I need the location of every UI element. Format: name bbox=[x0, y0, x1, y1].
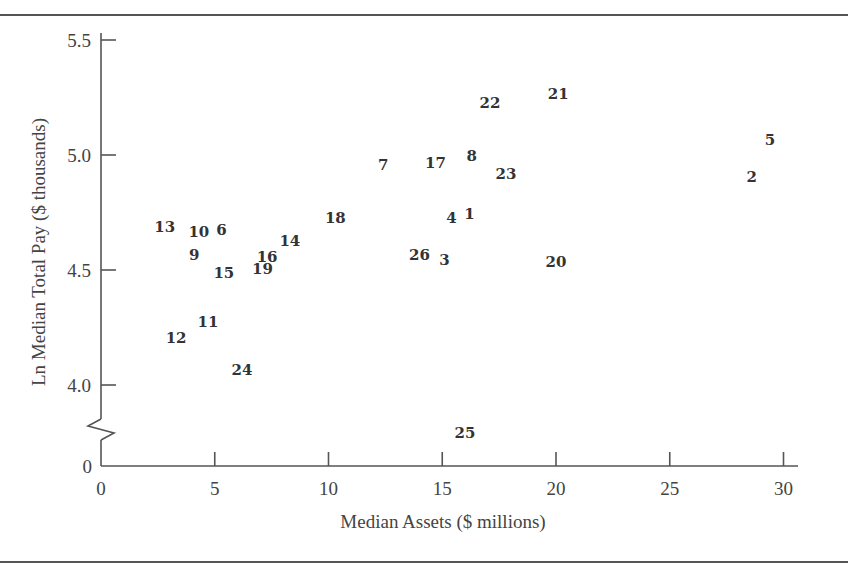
data-point-label: 18 bbox=[325, 209, 346, 227]
data-point-label: 26 bbox=[409, 246, 430, 264]
data-point-label: 2 bbox=[746, 168, 756, 186]
x-tick-label: 30 bbox=[774, 478, 793, 499]
data-point-label: 8 bbox=[467, 147, 477, 165]
data-point-label: 19 bbox=[252, 260, 273, 278]
data-point-label: 24 bbox=[232, 361, 253, 379]
data-point-label: 9 bbox=[189, 246, 199, 264]
y-tick-label: 5.0 bbox=[67, 145, 91, 166]
x-tick-label: 20 bbox=[547, 478, 566, 499]
x-tick-label: 15 bbox=[433, 478, 452, 499]
x-tick-label: 5 bbox=[210, 478, 220, 499]
x-tick-label: 0 bbox=[96, 478, 106, 499]
y-axis-title: Ln Median Total Pay ($ thousands) bbox=[28, 118, 50, 386]
scatter-chart: 4.04.55.05.5 051015202530 Ln Median Tota… bbox=[0, 0, 848, 563]
data-point-label: 11 bbox=[197, 313, 218, 331]
y-ticks: 4.04.55.05.5 bbox=[67, 30, 116, 396]
data-point-label: 14 bbox=[279, 232, 300, 250]
data-point-label: 20 bbox=[546, 253, 567, 271]
data-point-label: 3 bbox=[439, 251, 449, 269]
y-zero-label: 0 bbox=[83, 456, 93, 477]
data-point-label: 6 bbox=[216, 221, 226, 239]
data-point-label: 10 bbox=[188, 223, 209, 241]
data-point-label: 13 bbox=[154, 218, 175, 236]
data-point-label: 17 bbox=[425, 154, 446, 172]
axis-break-icon bbox=[88, 419, 114, 440]
data-point-label: 15 bbox=[213, 264, 234, 282]
x-ticks: 051015202530 bbox=[96, 452, 793, 499]
data-point-label: 4 bbox=[446, 209, 456, 227]
data-point-label: 12 bbox=[166, 329, 187, 347]
x-tick-label: 10 bbox=[319, 478, 338, 499]
x-tick-label: 25 bbox=[660, 478, 679, 499]
y-tick-label: 4.5 bbox=[67, 260, 91, 281]
data-points: 1234567891011121314151617181920212223242… bbox=[154, 85, 775, 442]
data-point-label: 7 bbox=[378, 156, 388, 174]
y-tick-label: 5.5 bbox=[67, 30, 91, 51]
data-point-label: 21 bbox=[548, 85, 569, 103]
data-point-label: 22 bbox=[480, 94, 501, 112]
data-point-label: 5 bbox=[765, 131, 775, 149]
data-point-label: 23 bbox=[496, 165, 517, 183]
x-axis-title: Median Assets ($ millions) bbox=[340, 511, 545, 533]
y-tick-label: 4.0 bbox=[67, 375, 91, 396]
data-point-label: 1 bbox=[464, 205, 474, 223]
data-point-label: 25 bbox=[455, 424, 476, 442]
